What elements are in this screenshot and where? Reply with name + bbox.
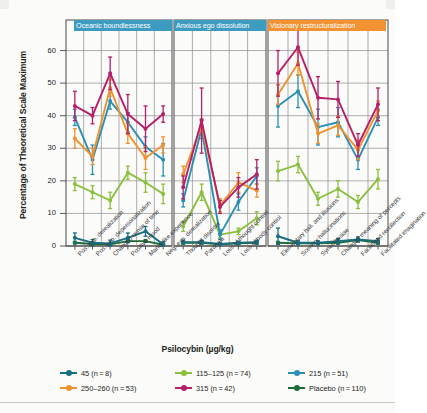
legend-label: 315 (n = 42)	[196, 384, 235, 393]
x-axis-title: Psilocybin (µg/kg)	[0, 344, 395, 354]
legend-label: 215 (n = 51)	[309, 369, 348, 378]
legend-swatch-icon	[288, 370, 305, 377]
plot-area: Oceanic boundlessness Anxious ego dissol…	[0, 0, 395, 365]
legend-swatch-icon	[60, 370, 77, 377]
panel-header-2: Visionary restructuralization	[268, 20, 386, 31]
legend-item-315[interactable]: 315 (n = 42)	[175, 383, 235, 393]
legend-label: 115–125 (n = 74)	[196, 369, 251, 378]
legend-item-250-260[interactable]: 250–260 (n = 53)	[60, 383, 136, 393]
y-tick-label: 20	[34, 176, 56, 185]
legend-item-215[interactable]: 215 (n = 51)	[288, 368, 348, 378]
legend-item-115-125[interactable]: 115–125 (n = 74)	[175, 368, 251, 378]
legend-label: 250–260 (n = 53)	[81, 384, 136, 393]
bottom-divider	[0, 402, 395, 403]
panel-header-1: Anxious ego dissolution	[174, 20, 266, 31]
y-tick-label: 0	[34, 241, 56, 250]
y-tick-label: 40	[34, 111, 56, 120]
panel-header-0: Oceanic boundlessness	[74, 20, 172, 31]
legend-item-placebo[interactable]: Placebo (n = 110)	[288, 383, 366, 393]
legend-swatch-icon	[175, 385, 192, 392]
y-axis-title: Percentage of Theoretical Scale Maximum	[18, 35, 28, 235]
legend-label: 45 (n = 8)	[81, 369, 112, 378]
legend-swatch-icon	[60, 385, 77, 392]
y-tick-label: 60	[34, 46, 56, 55]
y-tick-label: 30	[34, 143, 56, 152]
legend-swatch-icon	[288, 385, 305, 392]
chart-svg	[0, 0, 395, 365]
y-tick-label: 50	[34, 78, 56, 87]
legend-label: Placebo (n = 110)	[309, 384, 366, 393]
y-tick-label: 10	[34, 208, 56, 217]
panel-header-label-0: Oceanic boundlessness	[76, 21, 150, 30]
panel-header-label-1: Anxious ego dissolution	[176, 21, 249, 30]
panel-header-label-2: Visionary restructuralization	[270, 21, 355, 30]
legend: 45 (n = 8)250–260 (n = 53)115–125 (n = 7…	[0, 364, 395, 400]
legend-swatch-icon	[175, 370, 192, 377]
legend-item-45[interactable]: 45 (n = 8)	[60, 368, 112, 378]
